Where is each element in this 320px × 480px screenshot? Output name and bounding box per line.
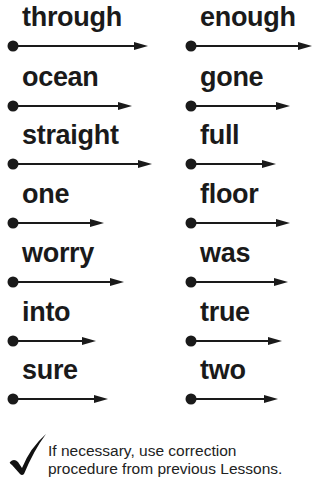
start-dot (8, 277, 19, 288)
word-text: sure (22, 357, 78, 384)
word-text: into (22, 299, 70, 326)
arrow-head (262, 160, 276, 168)
word-text: one (22, 181, 69, 208)
start-dot (186, 277, 197, 288)
sound-arrow (184, 216, 298, 230)
word-text: true (200, 299, 250, 326)
arrow-head (298, 42, 312, 50)
arrow-head (82, 337, 96, 345)
sound-arrow (6, 157, 160, 171)
arrow-head (138, 160, 152, 168)
word-text: was (200, 240, 250, 267)
start-dot (8, 218, 19, 229)
arrow-head (110, 278, 124, 286)
start-dot (186, 41, 197, 52)
sound-arrow (184, 157, 284, 171)
arrow-head (276, 219, 290, 227)
instruction-note: If necessary, use correction procedure f… (48, 442, 282, 478)
start-dot (186, 336, 197, 347)
start-dot (8, 41, 19, 52)
word-text: two (200, 357, 246, 384)
sound-arrow (6, 392, 116, 406)
start-dot (186, 159, 197, 170)
sound-arrow (6, 39, 156, 53)
arrow-head (264, 395, 278, 403)
sound-arrow (6, 99, 140, 113)
arrow-head (118, 102, 132, 110)
note-line-1: If necessary, use correction (48, 442, 282, 460)
arrow-head (274, 278, 288, 286)
start-dot (8, 336, 19, 347)
word-text: worry (22, 240, 94, 267)
checkmark-icon (8, 432, 48, 480)
start-dot (186, 218, 197, 229)
start-dot (186, 101, 197, 112)
sound-arrow (184, 334, 290, 348)
start-dot (8, 394, 19, 405)
note-line-2: procedure from previous Lessons. (48, 460, 282, 478)
word-text: enough (200, 4, 296, 31)
word-text: full (200, 122, 239, 149)
start-dot (8, 159, 19, 170)
sound-arrow (6, 334, 104, 348)
word-text: floor (200, 181, 259, 208)
sound-arrow (6, 275, 132, 289)
arrow-head (268, 337, 282, 345)
sound-arrow (184, 392, 286, 406)
arrow-head (134, 42, 148, 50)
sound-arrow (184, 99, 298, 113)
arrow-head (90, 219, 104, 227)
start-dot (186, 394, 197, 405)
start-dot (8, 101, 19, 112)
word-text: straight (22, 122, 119, 149)
word-text: gone (200, 64, 263, 91)
word-text: ocean (22, 64, 99, 91)
arrow-head (94, 395, 108, 403)
word-text: through (22, 4, 122, 31)
sound-arrow (6, 216, 112, 230)
sound-arrow (184, 275, 296, 289)
arrow-head (276, 102, 290, 110)
sound-arrow (184, 39, 320, 53)
